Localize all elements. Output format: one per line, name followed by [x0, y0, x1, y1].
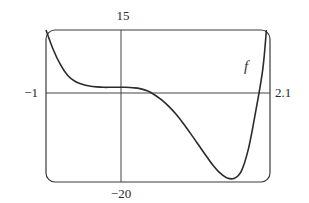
x-min-tick-label: −1 [24, 85, 38, 100]
x-max-tick-label: 2.1 [275, 85, 291, 100]
plot-frame [46, 30, 270, 182]
y-min-tick-label: −20 [111, 186, 131, 201]
function-label-f: f [244, 58, 250, 74]
function-plot: 15 −20 −1 2.1 f [0, 0, 309, 203]
y-max-tick-label: 15 [117, 8, 130, 23]
function-curve-f [46, 30, 266, 179]
